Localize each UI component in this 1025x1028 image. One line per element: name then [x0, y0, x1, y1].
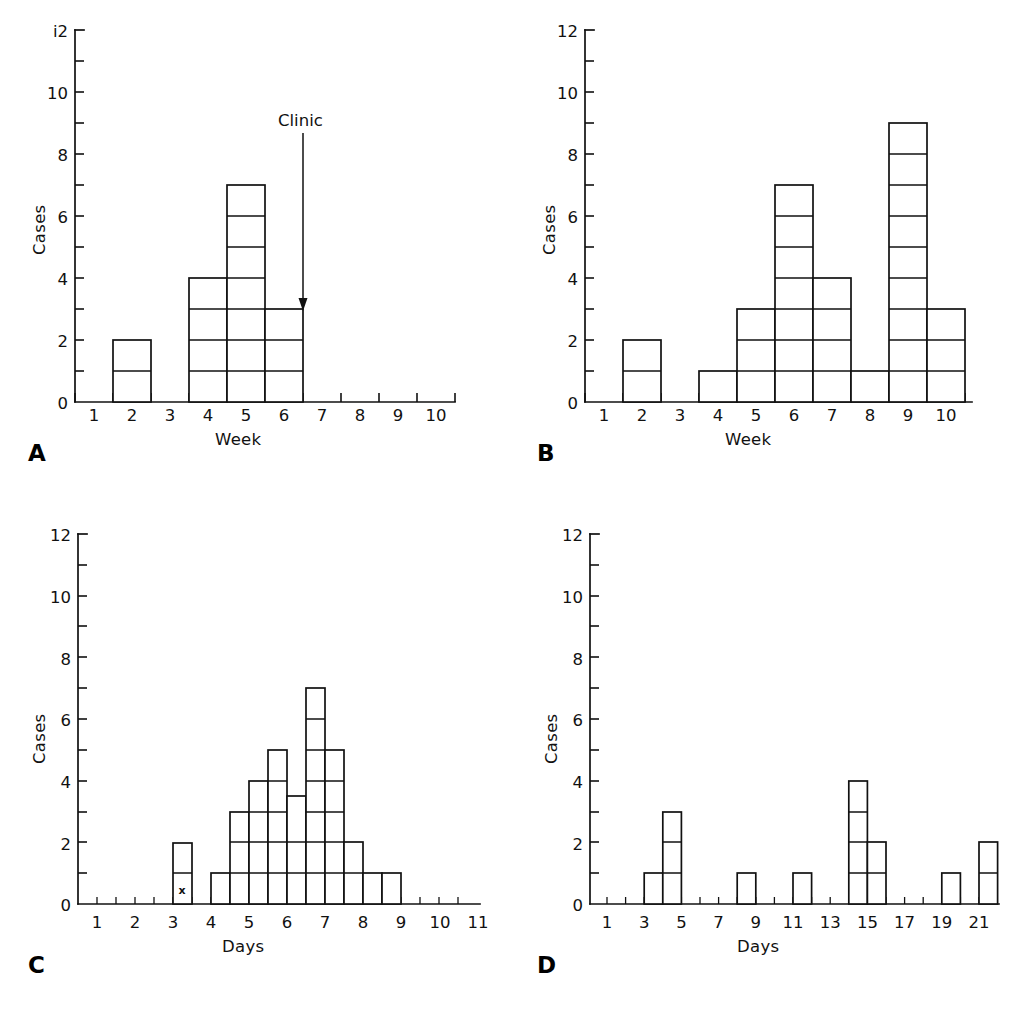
panel-d-bar-day-3	[644, 873, 663, 904]
panel-c-xtick-5: 5	[244, 913, 255, 932]
panel-c-plot: 12 10 8 6 4 2 0	[0, 514, 512, 944]
figure-sheet: A Cases Week Clinic	[0, 0, 1025, 1028]
panel-c-bar-day-4-5	[230, 812, 249, 904]
panel-a-xtick-4: 4	[203, 406, 214, 425]
panel-b-ytick-8: 8	[568, 146, 579, 165]
panel-d-letter: D	[537, 952, 557, 978]
panel-c-xtick-10: 10	[430, 913, 451, 932]
panel-b-xtick-1: 1	[599, 406, 610, 425]
panel-b-xtick-10: 10	[936, 406, 957, 425]
panel-a-ytick-6: 6	[58, 208, 69, 227]
panel-c-bar-day-8-0	[363, 873, 382, 904]
panel-c-ytick-6: 6	[61, 711, 72, 730]
panel-c-bars: x	[173, 688, 401, 904]
panel-b-xtick-5: 5	[751, 406, 762, 425]
panel-b-y-axis: 12 10 8 6 4 2 0	[557, 22, 594, 413]
panel-c-index-case-mark: x	[178, 884, 185, 897]
panel-a-ytick-12: i2	[53, 22, 68, 41]
panel-b-xtick-4: 4	[713, 406, 724, 425]
panel-a-bar-week-5	[227, 185, 265, 402]
panel-d-xtick-19: 19	[931, 913, 952, 932]
panel-c: C Cases Days	[0, 514, 512, 1028]
panel-b-ytick-2: 2	[568, 332, 579, 351]
panel-a-ytick-10: 10	[47, 84, 68, 103]
panel-c-xtick-8: 8	[358, 913, 369, 932]
panel-b-ytick-4: 4	[568, 270, 579, 289]
panel-a-plot: i2 10 8 6 4 2 0	[0, 0, 512, 430]
panel-d-ytick-8: 8	[573, 650, 584, 669]
panel-d-xtick-15: 15	[857, 913, 878, 932]
panel-b-ytick-10: 10	[557, 84, 578, 103]
panel-a-y-axis: i2 10 8 6 4 2 0	[47, 22, 84, 413]
panel-b: B Cases Week 12	[512, 0, 1025, 514]
panel-a-xtick-2: 2	[127, 406, 138, 425]
panel-a-xtick-10: 10	[426, 406, 447, 425]
panel-c-ytick-0: 0	[61, 896, 72, 915]
panel-b-bars	[623, 123, 965, 402]
panel-a-xtick-8: 8	[355, 406, 366, 425]
panel-a-ytick-8: 8	[58, 146, 69, 165]
panel-b-bar-week-4	[699, 371, 737, 402]
panel-c-xtick-3: 3	[168, 913, 179, 932]
panel-c-xtick-7: 7	[320, 913, 331, 932]
panel-c-xtick-1: 1	[92, 913, 103, 932]
panel-a-letter: A	[28, 440, 46, 466]
panel-c-bar-day-8-5	[382, 873, 401, 904]
panel-d-plot: 12 10 8 6 4 2 0	[512, 514, 1025, 944]
panel-c-ytick-10: 10	[50, 588, 71, 607]
panel-a-ytick-2: 2	[58, 332, 69, 351]
panel-d-ytick-2: 2	[573, 835, 584, 854]
panel-a-ytick-0: 0	[58, 394, 69, 413]
panel-d-bar-day-8	[737, 873, 756, 904]
panel-d-xtick-13: 13	[820, 913, 841, 932]
panel-b-bar-week-9	[889, 123, 927, 402]
panel-a: A Cases Week Clinic	[0, 0, 512, 514]
panel-b-plot: 12 10 8 6 4 2 0	[512, 0, 1025, 430]
panel-a-xtick-6: 6	[279, 406, 290, 425]
panel-c-ytick-12: 12	[50, 526, 71, 545]
panel-b-bar-week-6	[775, 185, 813, 402]
panel-b-letter: B	[537, 440, 555, 466]
panel-a-xtick-9: 9	[393, 406, 404, 425]
panel-d-y-axis: 12 10 8 6 4 2 0	[562, 526, 599, 915]
panel-a-clinic-arrow-icon	[299, 133, 308, 311]
panel-d-svg: 12 10 8 6 4 2 0	[512, 514, 1025, 944]
panel-c-xtick-9: 9	[396, 913, 407, 932]
panel-d-ytick-10: 10	[562, 588, 583, 607]
panel-c-xtick-11: 11	[468, 913, 489, 932]
panel-a-xtick-3: 3	[165, 406, 176, 425]
panel-a-bars	[113, 185, 303, 402]
panel-a-xtick-5: 5	[241, 406, 252, 425]
panel-c-xtick-2: 2	[130, 913, 141, 932]
panel-b-xtick-2: 2	[637, 406, 648, 425]
panel-d-bar-day-4	[663, 812, 682, 904]
panel-d-xtick-3: 3	[639, 913, 650, 932]
panel-d-bar-day-19	[942, 873, 961, 904]
panel-b-xtick-7: 7	[827, 406, 838, 425]
panel-c-bar-day-6-0	[287, 796, 306, 904]
panel-b-xtick-8: 8	[865, 406, 876, 425]
panel-a-ytick-4: 4	[58, 270, 69, 289]
panel-d-xtick-7: 7	[713, 913, 724, 932]
panel-d-ytick-4: 4	[573, 773, 584, 792]
panel-b-bar-week-5	[737, 309, 775, 402]
panel-c-xtick-6: 6	[282, 913, 293, 932]
panel-b-svg: 12 10 8 6 4 2 0	[512, 0, 1025, 430]
panel-b-xtick-6: 6	[789, 406, 800, 425]
panel-d-xtick-21: 21	[969, 913, 990, 932]
panel-c-y-axis: 12 10 8 6 4 2 0	[50, 526, 87, 915]
panel-a-svg: i2 10 8 6 4 2 0	[0, 0, 512, 430]
panel-d-xtick-11: 11	[783, 913, 804, 932]
panel-b-bar-week-8	[851, 371, 889, 402]
panel-c-bar-day-4-0	[211, 873, 230, 904]
panel-d: D Cases Days	[512, 514, 1025, 1028]
panel-d-ytick-6: 6	[573, 711, 584, 730]
panel-c-bar-day-5-5	[268, 750, 287, 904]
panel-b-x-axis-label: Week	[725, 430, 771, 449]
panel-b-xtick-9: 9	[903, 406, 914, 425]
panel-b-ytick-12: 12	[557, 22, 578, 41]
panel-d-bars	[644, 781, 997, 904]
panel-a-x-axis-label: Week	[215, 430, 261, 449]
panel-b-xtick-3: 3	[675, 406, 686, 425]
panel-d-ytick-12: 12	[562, 526, 583, 545]
